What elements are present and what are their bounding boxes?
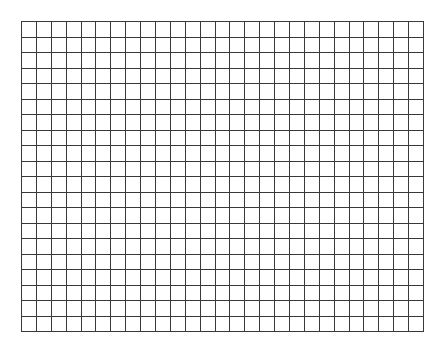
grid-horizontal-line — [21, 114, 424, 115]
grid-horizontal-line — [21, 331, 424, 332]
grid-horizontal-line — [21, 285, 424, 286]
grid-horizontal-line — [21, 52, 424, 53]
grid-horizontal-line — [21, 99, 424, 100]
grid-horizontal-line — [21, 192, 424, 193]
grid-horizontal-line — [21, 300, 424, 301]
grid-horizontal-line — [21, 130, 424, 131]
square-grid — [21, 21, 423, 331]
grid-horizontal-line — [21, 238, 424, 239]
grid-horizontal-line — [21, 254, 424, 255]
grid-horizontal-line — [21, 161, 424, 162]
grid-horizontal-line — [21, 68, 424, 69]
grid-horizontal-line — [21, 223, 424, 224]
grid-horizontal-line — [21, 37, 424, 38]
grid-horizontal-line — [21, 207, 424, 208]
grid-horizontal-line — [21, 21, 424, 22]
grid-horizontal-line — [21, 269, 424, 270]
grid-horizontal-line — [21, 145, 424, 146]
grid-horizontal-line — [21, 176, 424, 177]
grid-horizontal-line — [21, 83, 424, 84]
grid-horizontal-line — [21, 316, 424, 317]
